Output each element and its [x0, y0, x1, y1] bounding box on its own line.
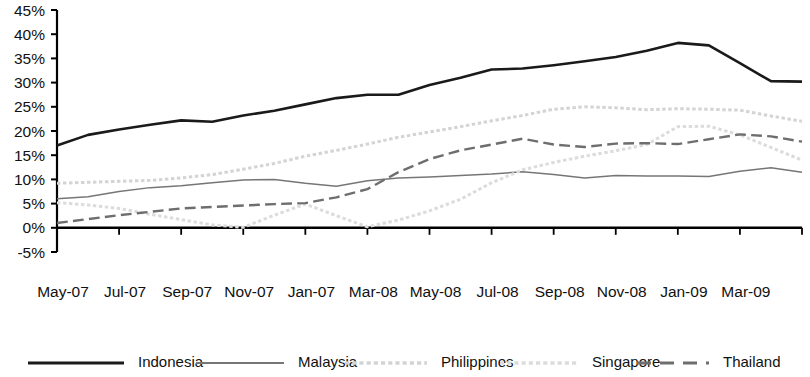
legend-label-singapore: Singapore — [592, 353, 660, 370]
y-axis-tick-label: 30% — [14, 74, 45, 91]
x-axis-tick-label: Sep-07 — [162, 283, 212, 300]
chart-plot-area: 45%40%35%30%25%20%15%10%5%0%-5%May-07Jul… — [0, 0, 810, 377]
x-axis-tick-label: Nov-08 — [597, 283, 647, 300]
y-axis-tick-label: 25% — [14, 98, 45, 115]
y-axis-tick-label: 0% — [23, 219, 46, 236]
y-axis-tick-label: 10% — [14, 171, 45, 188]
y-axis-tick-label: 5% — [23, 195, 46, 212]
legend-label-indonesia: Indonesia — [138, 353, 204, 370]
series-line-malaysia — [57, 168, 802, 199]
x-axis-tick-label: Mar-09 — [721, 283, 770, 300]
y-axis-tick-label: 15% — [14, 147, 45, 164]
legend-label-thailand: Thailand — [723, 353, 781, 370]
series-line-indonesia — [57, 43, 802, 146]
y-axis-tick-label: 20% — [14, 123, 45, 140]
series-line-philippines — [57, 107, 802, 183]
y-axis-tick-label: 45% — [14, 2, 45, 19]
y-axis-tick-label: 35% — [14, 50, 45, 67]
x-axis-tick-label: May-07 — [37, 283, 89, 300]
x-axis-tick-label: Jul-08 — [476, 283, 518, 300]
x-axis-tick-label: Jan-09 — [660, 283, 707, 300]
x-axis-tick-label: May-08 — [410, 283, 462, 300]
line-chart: 45%40%35%30%25%20%15%10%5%0%-5%May-07Jul… — [0, 0, 810, 377]
x-axis-tick-label: Nov-07 — [224, 283, 274, 300]
x-axis-tick-label: Mar-08 — [349, 283, 398, 300]
x-axis-tick-label: Jul-07 — [104, 283, 146, 300]
x-axis-tick-label: Sep-08 — [535, 283, 585, 300]
x-axis-tick-label: Jan-07 — [288, 283, 335, 300]
y-axis-tick-label: 40% — [14, 26, 45, 43]
y-axis-tick-label: -5% — [17, 244, 45, 261]
